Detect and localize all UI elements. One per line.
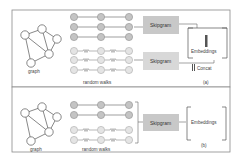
walks-label-a: random walks bbox=[83, 80, 112, 85]
concat-marker-2 bbox=[194, 64, 195, 71]
skipgram-label-b: Skipgram bbox=[150, 120, 171, 126]
walks-label-b: random walks bbox=[82, 147, 111, 152]
concat-label: Concat bbox=[197, 66, 212, 71]
embeddings-label-a: Embeddings bbox=[191, 49, 217, 54]
caption-a: (a) bbox=[203, 80, 209, 85]
embeddings-label-b: Embeddings bbox=[191, 120, 217, 125]
graph-label-a: graph bbox=[28, 69, 40, 74]
skipgram-label-top-a: Skipgram bbox=[150, 22, 171, 28]
concat-marker bbox=[192, 64, 193, 71]
skipgram-label-bottom-a: Skipgram bbox=[150, 58, 171, 64]
diagram-canvas: graph random walks Skipgram Skipgram bbox=[0, 0, 243, 168]
caption-b: (b) bbox=[201, 143, 207, 148]
graph-label-b: graph bbox=[30, 147, 42, 152]
embedding-vector-a bbox=[205, 35, 208, 47]
